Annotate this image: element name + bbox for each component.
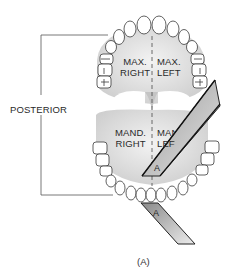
label-mand-left: MAND. LEFT — [157, 127, 175, 149]
dental-arch-diagram: MAX. RIGHT MAX. LEFT MAND. RIGHT MAND. L… — [0, 0, 235, 278]
film-holder-lower — [141, 203, 195, 244]
label-max-left: MAX. LEFT — [157, 56, 181, 78]
film-label-lower: A — [153, 208, 159, 218]
film-label-upper: A — [154, 163, 160, 173]
figure-caption: (A) — [137, 256, 150, 267]
label-mand-right: MAND. RIGHT — [115, 127, 146, 149]
label-max-right: MAX. RIGHT — [120, 56, 150, 78]
posterior-label: POSTERIOR — [10, 104, 67, 115]
